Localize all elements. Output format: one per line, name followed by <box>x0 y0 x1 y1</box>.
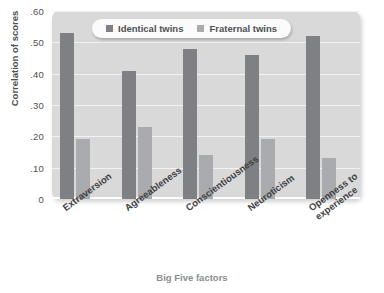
bar <box>122 71 136 199</box>
y-axis-tick-labels: 0.10.20.30.40.50.60 <box>0 11 48 199</box>
chart-legend: Identical twinsFraternal twins <box>92 19 291 38</box>
y-tick-label: .20 <box>30 131 44 142</box>
y-tick-label: 0 <box>39 194 44 205</box>
legend-label: Identical twins <box>118 23 183 34</box>
bar <box>306 36 320 199</box>
bars-layer <box>52 11 360 199</box>
y-tick-label: .60 <box>30 6 44 17</box>
legend-label: Fraternal twins <box>209 23 277 34</box>
y-tick-label: .50 <box>30 37 44 48</box>
legend-entry: Identical twins <box>106 23 183 34</box>
y-axis-title: Correlation of scores <box>9 0 20 119</box>
bar <box>60 33 74 199</box>
bar-chart-figure: 0.10.20.30.40.50.60 Correlation of score… <box>0 0 384 293</box>
y-tick-label: .10 <box>30 162 44 173</box>
legend-swatch-icon <box>197 25 204 32</box>
y-tick-label: .40 <box>30 68 44 79</box>
bar <box>245 55 259 199</box>
x-axis-title: Big Five factors <box>0 272 384 283</box>
legend-swatch-icon <box>106 25 113 32</box>
y-tick-label: .30 <box>30 100 44 111</box>
bar <box>183 49 197 199</box>
legend-entry: Fraternal twins <box>197 23 277 34</box>
